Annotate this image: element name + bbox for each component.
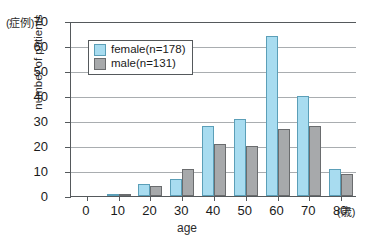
x-tick-mark — [119, 196, 120, 201]
bar-male-60 — [278, 129, 290, 197]
x-axis-unit-caption: (歳) — [337, 203, 355, 219]
legend-label: male(n=131) — [111, 58, 176, 70]
y-tick-label: 10 — [2, 164, 48, 179]
legend-label: female(n=178) — [111, 44, 185, 56]
legend: female(n=178)male(n=131) — [88, 40, 193, 75]
y-tick-label: 20 — [2, 139, 48, 154]
legend-swatch-male — [94, 58, 106, 70]
bar-male-50 — [246, 146, 258, 196]
bar-male-30 — [182, 169, 194, 197]
legend-item: female(n=178) — [94, 44, 185, 56]
legend-item: male(n=131) — [94, 58, 185, 70]
y-tick-mark — [65, 197, 71, 198]
x-tick-mark — [309, 196, 310, 201]
bar-female-10 — [107, 194, 119, 197]
bar-female-30 — [170, 179, 182, 197]
x-tick-mark — [150, 196, 151, 201]
bar-female-40 — [202, 126, 214, 196]
x-tick-mark — [87, 196, 88, 201]
bar-female-50 — [234, 119, 246, 197]
bar-female-20 — [138, 184, 150, 197]
bar-male-40 — [214, 144, 226, 197]
y-tick-label: 50 — [2, 64, 48, 79]
y-tick-label: 30 — [2, 114, 48, 129]
x-tick-mark — [341, 196, 342, 201]
y-tick-label: 70 — [2, 14, 48, 29]
legend-swatch-female — [94, 44, 106, 56]
bar-male-80 — [341, 174, 353, 197]
bar-male-10 — [119, 194, 131, 197]
y-tick-label: 40 — [2, 89, 48, 104]
x-axis-title: age — [0, 221, 374, 235]
x-tick-mark — [214, 196, 215, 201]
age-distribution-bar-chart: (症例) number of patients 010203040506070 … — [0, 0, 374, 242]
x-tick-mark — [182, 196, 183, 201]
bar-male-70 — [309, 126, 321, 196]
x-tick-mark — [278, 196, 279, 201]
y-tick-label: 60 — [2, 39, 48, 54]
x-tick-mark — [246, 196, 247, 201]
bar-female-70 — [297, 96, 309, 196]
bar-female-80 — [329, 169, 341, 197]
bar-female-60 — [266, 36, 278, 196]
y-tick-label: 0 — [2, 189, 48, 204]
bar-male-20 — [150, 186, 162, 196]
